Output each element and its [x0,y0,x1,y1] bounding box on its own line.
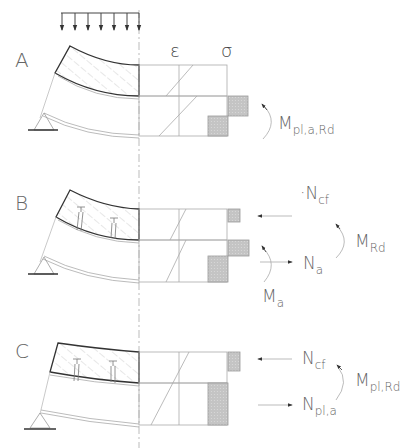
strain-header: ε [170,42,180,60]
force-label-na: Na [303,255,323,276]
moment-label-mrd: MRd [355,233,386,254]
moment-label-mplard: Mpl,a,Rd [278,115,335,136]
moment-label-mplrd: Mpl,Rd [355,372,400,393]
force-label-ncf-c: Ncf [302,350,326,371]
moment-label-ma: Ma [262,288,284,309]
distributed-load-icon [61,13,139,30]
case-b-beam [28,190,139,283]
force-label-npla: Npl,a [302,396,337,417]
case-label-b: B [15,193,28,213]
stress-header: σ [221,42,232,60]
case-label-a: A [15,50,29,70]
case-c-beam [24,343,139,429]
case-label-c: C [15,341,29,361]
composite-beam-diagram: ε σ A B C Mpl,a,Rd ·Ncf MRd Na Ma Ncf Mp… [0,0,417,448]
force-label-ncf-b: ·Ncf [300,185,329,206]
case-a-strain-stress [139,65,271,139]
case-a-beam [28,46,139,138]
